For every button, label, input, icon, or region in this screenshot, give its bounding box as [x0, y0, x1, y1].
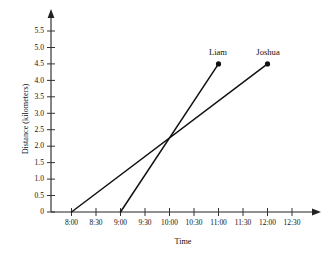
y-axis-arrow-icon	[48, 9, 55, 18]
series-endpoint-joshua	[265, 61, 270, 66]
series-endpoint-liam	[216, 61, 221, 66]
x-axis-title: Time	[153, 238, 213, 246]
distance-time-chart: 0 0.5 1.0 1.5 2.0 2.5 3.0 3.5 4.0 4.5 5.…	[0, 0, 336, 260]
y-axis-title: Distance (kilometers)	[21, 84, 30, 155]
series-label-joshua: Joshua	[238, 48, 298, 57]
y-axis-title-wrapper: Distance (kilometers)	[14, 44, 32, 194]
series-line-joshua	[72, 64, 268, 212]
y-tick-label: 0	[4, 208, 44, 216]
x-tick-label: 12:30	[272, 219, 312, 226]
x-axis-arrow-icon	[312, 209, 321, 216]
y-tick-label: 5.5	[4, 27, 44, 35]
